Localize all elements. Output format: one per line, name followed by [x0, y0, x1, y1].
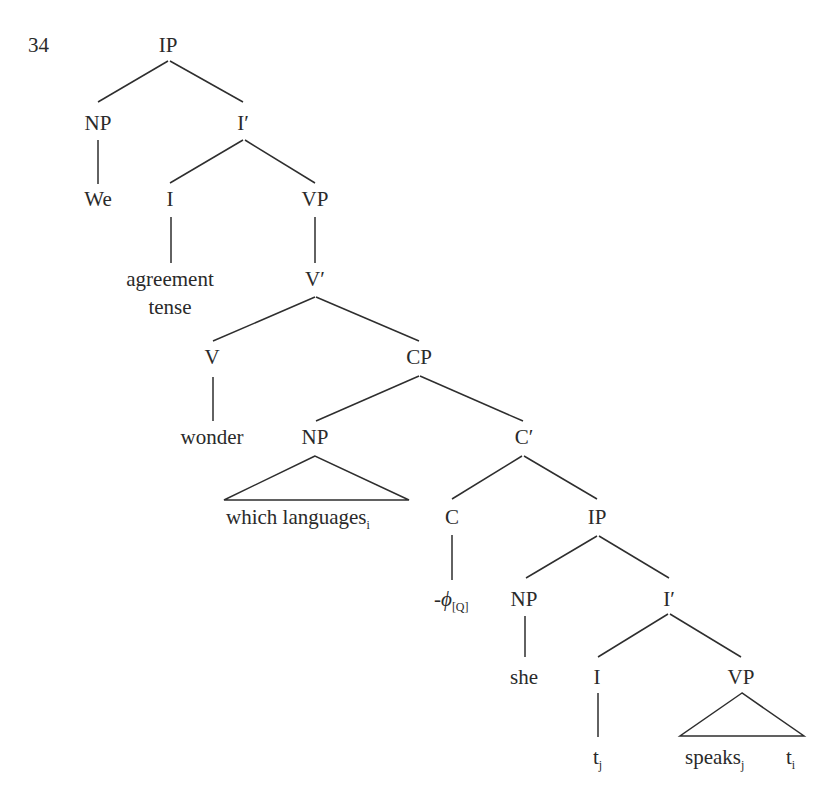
leaf-agreement: agreement	[126, 267, 214, 291]
node-np: NP	[85, 111, 112, 135]
leaf-trace-i: ti	[786, 745, 796, 772]
node-np-wh: NP	[302, 425, 329, 449]
leaf-trace-j: tj	[593, 745, 602, 772]
syntax-tree-diagram: 34 IP NP I′ We I VP agreement tense	[0, 0, 839, 806]
leaf-wonder: wonder	[181, 425, 244, 449]
node-i: I	[167, 187, 174, 211]
node-v: V	[204, 345, 219, 369]
np-triangle	[224, 456, 409, 500]
leaf-she: she	[510, 665, 538, 689]
node-vp-embedded: VP	[728, 665, 755, 689]
example-number: 34	[28, 33, 50, 57]
node-ip-embedded: IP	[588, 505, 607, 529]
node-vp: VP	[302, 187, 329, 211]
node-v-bar: V′	[305, 267, 325, 291]
leaf-tense: tense	[148, 295, 191, 319]
node-c-bar: C′	[515, 425, 534, 449]
leaf-speaks: speaksj	[685, 745, 744, 772]
leaf-we: We	[84, 187, 111, 211]
leaf-which-languages: which languagesi	[226, 505, 371, 532]
vp-triangle	[680, 693, 804, 736]
node-i-bar: I′	[237, 111, 249, 135]
node-c: C	[445, 505, 459, 529]
node-np-subject: NP	[511, 587, 538, 611]
node-i-embedded: I	[594, 665, 601, 689]
tree-nodes: IP NP I′ We I VP agreement tense V′ V CP…	[84, 33, 796, 772]
tree-edges	[98, 61, 741, 737]
leaf-null-q: -ϕ[Q]	[434, 587, 469, 614]
node-i-bar-embedded: I′	[663, 587, 675, 611]
node-cp: CP	[406, 345, 432, 369]
node-ip: IP	[159, 33, 178, 57]
